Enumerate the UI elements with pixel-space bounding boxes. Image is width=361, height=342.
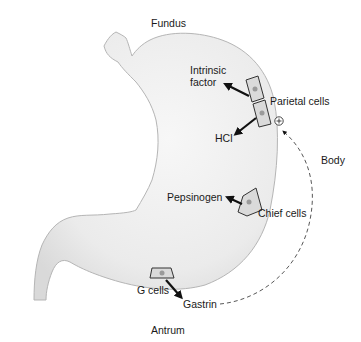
stomach-diagram	[0, 0, 361, 342]
label-intrinsic-line1: Intrinsic	[190, 64, 226, 76]
label-g-cells: G cells	[137, 284, 169, 296]
label-body: Body	[321, 154, 345, 166]
label-antrum: Antrum	[151, 324, 185, 336]
label-hcl: HCl	[215, 132, 233, 144]
stomach-shape	[34, 32, 277, 300]
label-pepsinogen: Pepsinogen	[167, 191, 222, 203]
label-chief-cells: Chief cells	[258, 207, 306, 219]
g-cell	[150, 268, 174, 278]
label-fundus: Fundus	[151, 17, 186, 29]
stimulation-plus-icon	[275, 117, 283, 125]
label-parietal-cells: Parietal cells	[270, 95, 330, 107]
label-gastrin: Gastrin	[183, 298, 217, 310]
label-intrinsic-line2: factor	[190, 76, 216, 88]
